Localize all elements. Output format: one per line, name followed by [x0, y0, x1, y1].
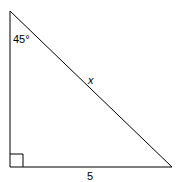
hypotenuse-label: x [87, 74, 94, 86]
triangle-diagram: 45° x 5 [0, 0, 177, 182]
base-label: 5 [87, 170, 93, 182]
triangle-outline [10, 11, 172, 167]
right-angle-marker [10, 154, 23, 167]
angle-label: 45° [13, 33, 30, 45]
